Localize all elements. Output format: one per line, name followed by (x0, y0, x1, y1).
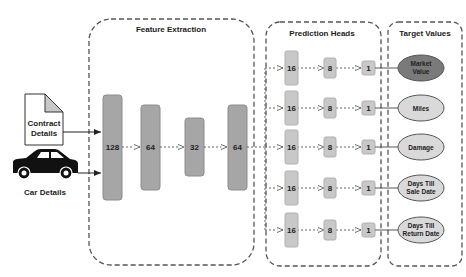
svg-text:128: 128 (106, 143, 120, 152)
architecture-diagram: Feature Extraction Prediction Heads Targ… (0, 0, 466, 277)
svg-text:Market: Market (411, 60, 433, 67)
svg-text:8: 8 (328, 64, 333, 73)
svg-text:Damage: Damage (408, 144, 434, 152)
svg-text:16: 16 (287, 104, 296, 113)
svg-text:8: 8 (328, 184, 333, 193)
svg-text:64: 64 (233, 143, 242, 152)
car-details-label: Car Details (24, 188, 66, 197)
prediction-head-3: 16 8 1 Days Till Sale Date (265, 171, 444, 205)
svg-text:16: 16 (287, 64, 296, 73)
prediction-head-4: 16 8 1 Days Till Return Date (265, 213, 444, 247)
svg-text:8: 8 (328, 143, 333, 152)
svg-text:8: 8 (328, 226, 333, 235)
contract-details-input: Contract Details (25, 94, 63, 145)
feature-extraction-title: Feature Extraction (136, 25, 206, 34)
prediction-head-2: 16 8 1 Damage (265, 130, 444, 164)
svg-text:1: 1 (366, 143, 371, 152)
svg-text:Days Till: Days Till (408, 180, 435, 188)
svg-text:32: 32 (190, 143, 199, 152)
svg-text:16: 16 (287, 143, 296, 152)
contract-label-line1: Contract (28, 119, 61, 128)
svg-text:1: 1 (366, 104, 371, 113)
car-icon (13, 149, 78, 179)
svg-text:16: 16 (287, 226, 296, 235)
feature-layer-64b: 64 (228, 105, 247, 190)
car-details-input: Car Details (13, 149, 78, 197)
svg-text:16: 16 (287, 184, 296, 193)
svg-text:1: 1 (366, 184, 371, 193)
svg-text:Value: Value (413, 68, 430, 75)
svg-text:Return Date: Return Date (403, 230, 440, 237)
feature-layer-64a: 64 (141, 105, 160, 190)
prediction-head-1: 16 8 1 Miles (265, 91, 444, 125)
target-values-title: Target Values (399, 29, 451, 38)
feature-layer-128: 128 (103, 95, 122, 200)
svg-text:1: 1 (366, 64, 371, 73)
svg-text:Sale Date: Sale Date (406, 188, 436, 195)
svg-text:64: 64 (146, 143, 155, 152)
prediction-heads-title: Prediction Heads (289, 29, 355, 38)
svg-text:Miles: Miles (413, 105, 430, 112)
svg-text:Days Till: Days Till (408, 222, 435, 230)
svg-text:8: 8 (328, 104, 333, 113)
feature-layer-32: 32 (185, 118, 204, 176)
svg-text:1: 1 (366, 226, 371, 235)
prediction-head-0: 16 8 1 Market Value (265, 51, 444, 85)
contract-label-line2: Details (31, 129, 58, 138)
